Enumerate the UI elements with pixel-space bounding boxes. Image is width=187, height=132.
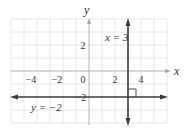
tick-x-2: 2	[113, 74, 118, 85]
x-axis-arrow-icon	[165, 69, 171, 73]
tick-x-neg2: −2	[52, 74, 63, 85]
y-axis-label: y	[83, 3, 90, 17]
tick-x-neg4: −4	[26, 74, 37, 85]
x-axis-label: x	[173, 64, 180, 78]
coordinate-plane: x y −4 −2 0 2 4 2 −2 x = 3 y = −2	[0, 0, 187, 132]
label-x-equals-3: x = 3	[104, 31, 129, 43]
label-y-equals-neg2: y = −2	[30, 101, 62, 113]
y-axis	[87, 18, 91, 125]
tick-x-0: 0	[81, 74, 86, 85]
tick-y-2: 2	[81, 40, 86, 51]
x-axis	[11, 69, 171, 73]
arrow-down-icon	[126, 118, 131, 126]
right-angle-marker	[128, 89, 136, 97]
tick-x-4: 4	[139, 74, 144, 85]
